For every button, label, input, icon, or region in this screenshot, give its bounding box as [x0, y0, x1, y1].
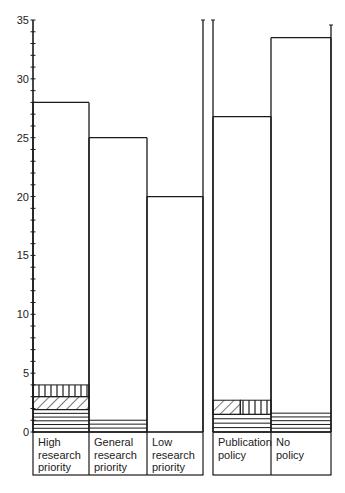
y-tick-label: 20	[17, 191, 29, 203]
y-axis: 05101520253035	[17, 14, 331, 438]
bar-3	[147, 197, 203, 432]
category-label: Lowresearchpriority	[152, 436, 195, 474]
y-tick-label: 30	[17, 73, 29, 85]
category-label: Generalresearchpriority	[94, 436, 137, 474]
bar-5	[271, 38, 331, 432]
bar-4	[213, 117, 271, 432]
y-tick-label: 10	[17, 308, 29, 320]
bars	[33, 20, 333, 475]
y-tick-label: 5	[23, 367, 29, 379]
category-label: Publicationpolicy	[218, 436, 272, 461]
y-tick-label: 35	[17, 14, 29, 26]
y-tick-label: 0	[23, 426, 29, 438]
y-tick-label: 15	[17, 249, 29, 261]
bar-1	[33, 102, 89, 432]
bar-2	[89, 138, 147, 432]
category-label: Nopolicy	[276, 436, 304, 461]
bar-chart: 05101520253035	[0, 0, 345, 493]
category-label: Highresearchpriority	[38, 436, 81, 474]
y-tick-label: 25	[17, 132, 29, 144]
